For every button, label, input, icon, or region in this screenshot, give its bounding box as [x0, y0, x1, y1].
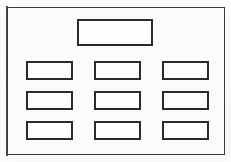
grid-cell-r2c1[interactable] — [26, 91, 73, 110]
grid-cell-r2c2[interactable] — [94, 91, 141, 110]
figure-canvas — [0, 0, 231, 162]
grid-cell-r3c1[interactable] — [26, 121, 73, 140]
grid-cell-r1c1[interactable] — [26, 61, 73, 80]
grid-cell-r1c3[interactable] — [162, 61, 209, 80]
grid-cell-r3c2[interactable] — [94, 121, 141, 140]
grid-cell-r1c2[interactable] — [94, 61, 141, 80]
grid-cell-r3c3[interactable] — [162, 121, 209, 140]
header-box[interactable] — [77, 19, 153, 46]
grid-cell-r2c3[interactable] — [162, 91, 209, 110]
